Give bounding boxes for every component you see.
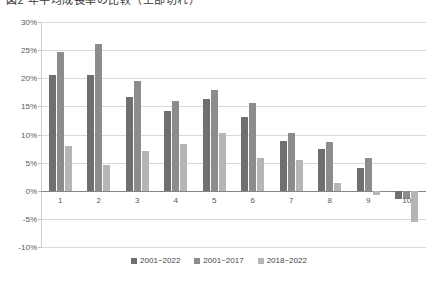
y-axis-tick-label: 30% <box>3 18 37 27</box>
bar-group <box>311 22 350 247</box>
y-axis-tick-label: 0% <box>3 186 37 195</box>
bar-group <box>388 22 427 247</box>
legend-label: 2018~2022 <box>267 256 307 265</box>
page-title: 図2 年平均成長率の比較（上部切れ） <box>6 0 200 7</box>
bar <box>357 168 364 191</box>
x-axis-tick-label: 7 <box>289 196 293 205</box>
bar-group <box>195 22 234 247</box>
legend-swatch-icon <box>131 258 137 264</box>
legend-swatch-icon <box>194 258 200 264</box>
bar-group <box>157 22 196 247</box>
x-axis-tick-label: 1 <box>58 196 62 205</box>
x-axis: 12345678910 <box>41 192 426 208</box>
legend-swatch-icon <box>258 258 264 264</box>
bar <box>126 97 133 190</box>
bar <box>103 165 110 190</box>
chart-legend: 2001~20222001~20172018~2022 <box>0 256 438 265</box>
bar <box>280 141 287 191</box>
bar <box>134 81 141 191</box>
y-axis-tick-label: 15% <box>3 102 37 111</box>
bar-group <box>234 22 273 247</box>
legend-label: 2001~2022 <box>140 256 180 265</box>
x-axis-tick-label: 4 <box>174 196 178 205</box>
bar <box>65 146 72 190</box>
x-axis-tick-label: 5 <box>212 196 216 205</box>
bar-group <box>349 22 388 247</box>
y-axis: 30%25%20%15%10%5%0%-5%-10% <box>0 22 37 247</box>
y-axis-tick-label: 25% <box>3 46 37 55</box>
bar-group <box>41 22 80 247</box>
bar <box>203 99 210 191</box>
x-axis-tick-label: 8 <box>328 196 332 205</box>
x-axis-tick-label: 9 <box>366 196 370 205</box>
bar-group <box>118 22 157 247</box>
chart-title-strip: 図2 年平均成長率の比較（上部切れ） <box>0 0 438 9</box>
bar <box>95 44 102 191</box>
bar-chart: 図2 年平均成長率の比較（上部切れ） 30%25%20%15%10%5%0%-5… <box>0 0 438 282</box>
y-axis-tick-label: -5% <box>3 214 37 223</box>
bar <box>172 101 179 191</box>
y-axis-tick-label: -10% <box>3 243 37 252</box>
x-axis-tick-label: 6 <box>251 196 255 205</box>
y-axis-tick-label: 10% <box>3 130 37 139</box>
bar <box>326 142 333 190</box>
x-axis-tick-label: 10 <box>402 196 411 205</box>
bar <box>241 117 248 191</box>
y-axis-tick-label: 20% <box>3 74 37 83</box>
y-axis-tick-label: 5% <box>3 158 37 167</box>
bar <box>334 183 341 191</box>
bar <box>164 111 171 191</box>
bar <box>142 151 149 191</box>
legend-label: 2001~2017 <box>203 256 243 265</box>
gridline <box>41 247 426 248</box>
bar <box>365 158 372 191</box>
bar <box>219 133 226 190</box>
bar <box>288 133 295 190</box>
bar-group <box>272 22 311 247</box>
legend-item[interactable]: 2001~2017 <box>194 256 243 265</box>
bar <box>49 75 56 191</box>
bars-layer <box>41 22 426 247</box>
bar <box>318 149 325 191</box>
bar <box>87 75 94 191</box>
bar <box>257 158 264 191</box>
x-axis-tick-label: 2 <box>97 196 101 205</box>
bar <box>211 90 218 191</box>
x-axis-tick-label: 3 <box>135 196 139 205</box>
bar <box>296 160 303 190</box>
legend-item[interactable]: 2018~2022 <box>258 256 307 265</box>
bar <box>249 103 256 191</box>
bar <box>180 144 187 191</box>
legend-item[interactable]: 2001~2022 <box>131 256 180 265</box>
bar <box>57 52 64 191</box>
bar-group <box>80 22 119 247</box>
